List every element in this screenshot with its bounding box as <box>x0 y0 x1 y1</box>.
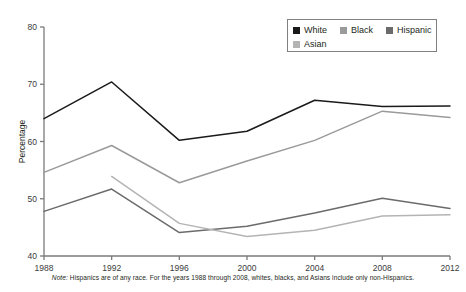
x-tick-label: 2008 <box>373 263 392 273</box>
y-tick-label: 60 <box>28 137 38 147</box>
x-tick-label: 1988 <box>35 263 54 273</box>
legend-label-white: White <box>304 25 327 35</box>
chart-footnote: Note: Hispanics are of any race. For the… <box>0 274 466 281</box>
legend-swatch-white <box>293 27 300 34</box>
chart-axes <box>40 27 450 260</box>
legend-swatch-hispanic <box>386 27 393 34</box>
y-tick-label: 70 <box>28 79 38 89</box>
chart-series-layer <box>44 82 450 237</box>
chart-legend: White Black Hispanic Asian <box>287 19 437 52</box>
legend-item-white: White <box>293 25 327 35</box>
y-tick-label: 50 <box>28 194 38 204</box>
legend-row-2: Asian <box>293 37 431 51</box>
chart-figure: 80706050401988199219962000200420082012Pe… <box>0 0 466 292</box>
legend-item-black: Black <box>340 25 373 35</box>
x-tick-label: 1992 <box>102 263 121 273</box>
legend-item-asian: Asian <box>293 39 327 49</box>
legend-label-hispanic: Hispanic <box>397 25 432 35</box>
footnote-prefix: Note: <box>52 274 68 281</box>
legend-row-1: White Black Hispanic <box>293 23 431 37</box>
legend-item-hispanic: Hispanic <box>386 25 432 35</box>
x-tick-label: 1996 <box>170 263 189 273</box>
series-line-hispanic <box>44 189 450 233</box>
legend-label-black: Black <box>351 25 373 35</box>
x-tick-label: 2004 <box>305 263 324 273</box>
legend-swatch-asian <box>293 41 300 48</box>
series-line-asian <box>112 176 450 236</box>
legend-swatch-black <box>340 27 347 34</box>
y-axis-title: Percentage <box>17 119 27 163</box>
x-tick-label: 2000 <box>238 263 257 273</box>
legend-label-asian: Asian <box>304 39 327 49</box>
y-tick-label: 80 <box>28 22 38 32</box>
footnote-text: Hispanics are of any race. For the years… <box>70 274 414 281</box>
series-line-black <box>44 111 450 183</box>
x-tick-label: 2012 <box>441 263 460 273</box>
y-tick-label: 40 <box>28 251 38 261</box>
